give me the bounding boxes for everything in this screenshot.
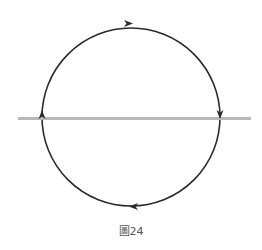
arrow-right-icon [124, 20, 133, 27]
circulation-diagram [0, 0, 262, 250]
figure-caption: 圖24 [0, 222, 262, 238]
